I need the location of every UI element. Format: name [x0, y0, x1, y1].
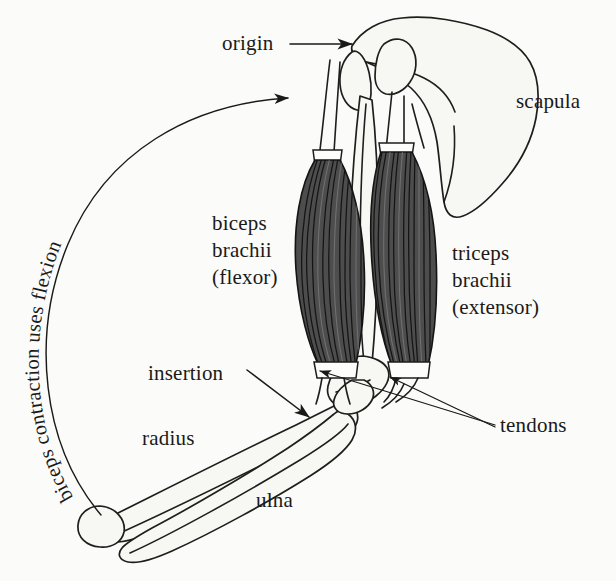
label-origin: origin	[222, 30, 273, 57]
label-radius: radius	[142, 425, 195, 452]
label-triceps-brachii: triceps brachii (extensor)	[452, 240, 539, 321]
biceps-brachii-muscle	[295, 60, 364, 404]
triceps-brachii-muscle	[371, 92, 437, 408]
label-tendons: tendons	[500, 412, 567, 439]
insertion-arrow	[247, 370, 309, 417]
anatomy-diagram: biceps contraction uses flexion origin s…	[0, 0, 616, 581]
label-ulna: ulna	[256, 487, 293, 514]
label-biceps-brachii: biceps brachii (flexor)	[212, 210, 278, 291]
arc-label-text: biceps contraction uses flexion	[21, 237, 77, 506]
label-insertion: insertion	[148, 360, 223, 387]
label-scapula: scapula	[516, 88, 580, 115]
